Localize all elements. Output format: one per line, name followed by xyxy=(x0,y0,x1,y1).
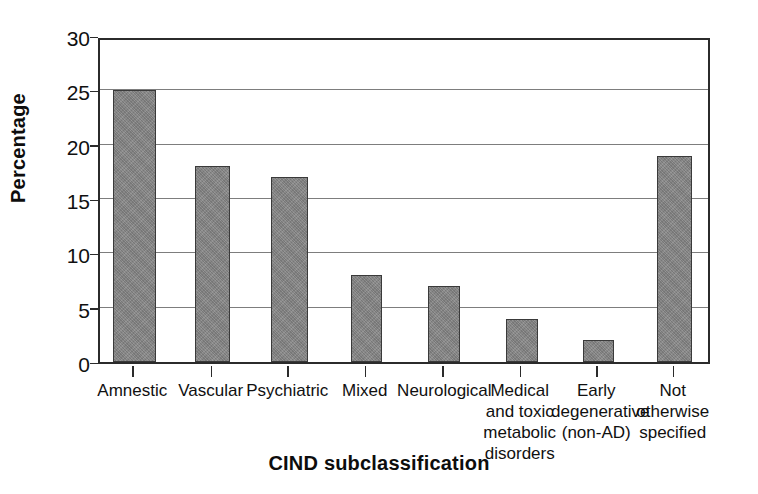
x-tick-label-line: Not xyxy=(628,380,718,401)
y-tick-mark-10 xyxy=(90,254,98,256)
bar xyxy=(506,319,538,362)
x-tick-mark-5 xyxy=(520,366,522,377)
y-tick-mark-5 xyxy=(90,308,98,310)
x-tick-mark-0 xyxy=(132,366,134,377)
bar xyxy=(271,177,308,362)
bar xyxy=(583,340,614,362)
y-tick-label-10: 10 xyxy=(48,245,90,266)
bar xyxy=(351,275,382,362)
y-tick-mark-20 xyxy=(90,145,98,147)
y-tick-label-20: 20 xyxy=(48,137,90,158)
bar-series xyxy=(100,40,708,362)
x-tick-label-line: Amnestic xyxy=(87,380,177,401)
x-tick-mark-7 xyxy=(673,366,675,377)
x-axis-tick-marks xyxy=(98,366,710,378)
x-tick-label-line: otherwise xyxy=(628,401,718,422)
x-tick-label-7: Nototherwisespecified xyxy=(628,380,718,443)
plot-area xyxy=(98,38,710,364)
y-tick-label-30: 30 xyxy=(48,28,90,49)
y-tick-mark-25 xyxy=(90,91,98,93)
x-tick-mark-6 xyxy=(596,366,598,377)
x-tick-mark-1 xyxy=(211,366,213,377)
x-tick-label-line: specified xyxy=(628,422,718,443)
x-axis-title: CIND subclassification xyxy=(0,452,758,475)
y-tick-mark-15 xyxy=(90,200,98,202)
x-tick-label-0: Amnestic xyxy=(87,380,177,401)
x-tick-mark-2 xyxy=(287,366,289,377)
bar xyxy=(657,156,692,362)
y-tick-mark-30 xyxy=(90,37,98,39)
y-axis-tick-labels: 051015202530 xyxy=(40,38,90,364)
y-tick-label-0: 0 xyxy=(48,354,90,375)
bar xyxy=(428,286,460,362)
bar xyxy=(195,166,230,362)
y-tick-label-15: 15 xyxy=(48,191,90,212)
bar-chart-figure: Percentage 051015202530 AmnesticVascular… xyxy=(0,0,758,494)
x-tick-mark-3 xyxy=(365,366,367,377)
bar xyxy=(113,90,156,362)
y-tick-mark-0 xyxy=(90,363,98,365)
x-tick-mark-4 xyxy=(442,366,444,377)
y-tick-label-25: 25 xyxy=(48,82,90,103)
y-tick-label-5: 5 xyxy=(48,300,90,321)
